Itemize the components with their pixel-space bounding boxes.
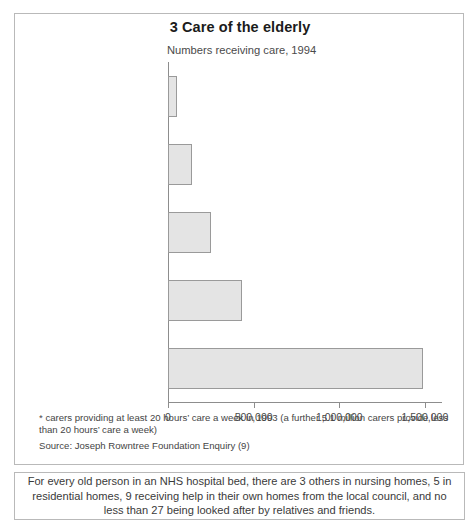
x-axis-tick [425, 402, 426, 408]
footnote-source: Source: Joseph Rowntree Foundation Enqui… [39, 440, 467, 452]
footnote-asterisk: * carers providing at least 20 hours’ ca… [39, 412, 467, 437]
caption-text: For every old person in an NHS hospital … [25, 474, 454, 517]
bar [168, 280, 242, 321]
bar [168, 212, 211, 253]
bar [168, 348, 423, 389]
x-axis-tick [254, 402, 255, 408]
caption-box: For every old person in an NHS hospital … [14, 472, 465, 520]
bar [168, 144, 192, 185]
chart-page: 3 Care of the elderly Numbers receiving … [0, 0, 476, 532]
plot-area: 0500,0001,000,0001,500,000 NHS hospitals… [168, 62, 442, 402]
chart-title: 3 Care of the elderly [15, 19, 465, 35]
chart-frame: 3 Care of the elderly Numbers receiving … [14, 13, 464, 465]
bar [168, 76, 177, 117]
chart-subtitle: Numbers receiving care, 1994 [167, 44, 316, 56]
x-axis-tick [339, 402, 340, 408]
x-axis-tick [168, 402, 169, 408]
x-axis-line [168, 402, 442, 403]
